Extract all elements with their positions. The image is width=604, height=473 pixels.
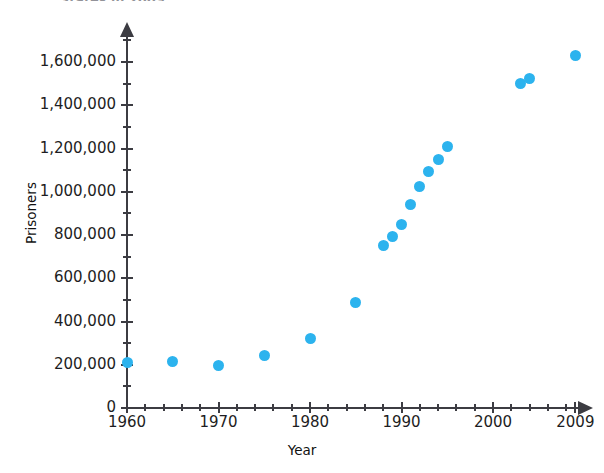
- y-axis-title: Prisoners: [23, 168, 39, 258]
- x-tick-label: 2009: [556, 415, 594, 430]
- x-tick-label: 1970: [199, 415, 237, 430]
- x-tick-minor: [181, 404, 183, 411]
- y-tick-major: [121, 191, 133, 193]
- y-tick-minor: [123, 256, 131, 258]
- x-tick-minor: [565, 404, 567, 411]
- y-tick-label: 1,600,000: [40, 54, 116, 69]
- y-axis-line: [126, 34, 128, 409]
- x-axis-title: Year: [0, 442, 604, 458]
- y-tick-minor: [123, 212, 131, 214]
- x-tick-label: 1960: [108, 415, 146, 430]
- x-tick-minor: [474, 404, 476, 411]
- data-point: [414, 181, 425, 192]
- x-tick-major: [309, 402, 311, 413]
- x-axis-line: [126, 407, 581, 409]
- x-tick-minor: [199, 404, 201, 411]
- x-tick-minor: [455, 404, 457, 411]
- y-tick-minor: [123, 39, 131, 41]
- x-tick-minor: [346, 404, 348, 411]
- y-tick-label: 1,400,000: [40, 97, 116, 112]
- y-tick-major: [121, 321, 133, 323]
- data-point: [524, 73, 535, 84]
- x-tick-major: [574, 402, 576, 413]
- scatter-chart: States in 2009 0200,000400,000600,000800…: [0, 0, 604, 473]
- x-tick-minor: [419, 404, 421, 411]
- data-point: [122, 357, 133, 368]
- y-axis-arrow-icon: [120, 22, 134, 37]
- data-point: [213, 360, 224, 371]
- data-point: [387, 231, 398, 242]
- y-tick-label: 800,000: [54, 227, 116, 242]
- x-tick-label: 1990: [382, 415, 420, 430]
- x-tick-major: [218, 402, 220, 413]
- data-point: [433, 154, 444, 165]
- x-tick-minor: [437, 404, 439, 411]
- x-tick-minor: [382, 404, 384, 411]
- chart-title: States in 2009: [60, 0, 165, 1]
- x-tick-minor: [547, 404, 549, 411]
- y-tick-label: 600,000: [54, 270, 116, 285]
- x-tick-minor: [163, 404, 165, 411]
- y-tick-minor: [123, 299, 131, 301]
- data-point: [396, 219, 407, 230]
- y-tick-minor: [123, 385, 131, 387]
- x-tick-label: 1980: [291, 415, 329, 430]
- x-tick-minor: [291, 404, 293, 411]
- data-point: [378, 240, 389, 251]
- y-tick-major: [121, 61, 133, 63]
- y-tick-major: [121, 234, 133, 236]
- data-point: [167, 356, 178, 367]
- data-point: [442, 141, 453, 152]
- data-point: [405, 199, 416, 210]
- x-tick-minor: [144, 404, 146, 411]
- y-tick-label: 200,000: [54, 357, 116, 372]
- y-tick-label: 1,000,000: [40, 184, 116, 199]
- data-point: [259, 350, 270, 361]
- y-tick-major: [121, 148, 133, 150]
- y-tick-minor: [123, 169, 131, 171]
- x-tick-minor: [529, 404, 531, 411]
- data-point: [350, 297, 361, 308]
- x-tick-minor: [364, 404, 366, 411]
- x-tick-major: [492, 402, 494, 413]
- x-tick-minor: [510, 404, 512, 411]
- x-tick-minor: [272, 404, 274, 411]
- y-tick-minor: [123, 83, 131, 85]
- y-tick-label: 1,200,000: [40, 141, 116, 156]
- x-tick-major: [401, 402, 403, 413]
- data-point: [423, 166, 434, 177]
- data-point: [305, 333, 316, 344]
- y-tick-major: [121, 104, 133, 106]
- y-tick-label: 400,000: [54, 314, 116, 329]
- y-tick-minor: [123, 342, 131, 344]
- x-tick-major: [126, 402, 128, 413]
- x-tick-minor: [327, 404, 329, 411]
- data-point: [570, 50, 581, 61]
- x-tick-label: 2000: [474, 415, 512, 430]
- x-tick-minor: [254, 404, 256, 411]
- y-tick-minor: [123, 126, 131, 128]
- y-tick-major: [121, 277, 133, 279]
- x-tick-minor: [236, 404, 238, 411]
